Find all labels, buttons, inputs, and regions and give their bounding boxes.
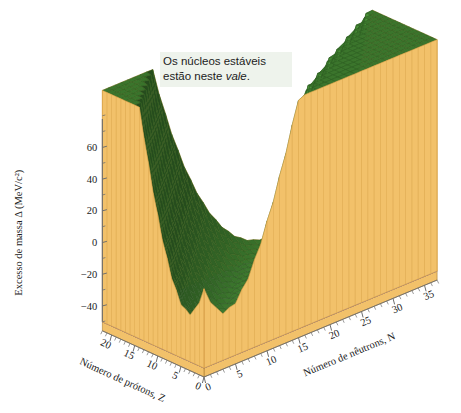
- n-axis-title: Número de nêutrons, N: [302, 330, 398, 378]
- callout-line-2: estão neste vale.: [163, 69, 289, 84]
- z-tick-label: −20: [81, 269, 97, 280]
- z-tick-label: 0: [92, 237, 97, 248]
- z-tick-label: −40: [81, 301, 97, 312]
- n-tick-label: 10: [264, 353, 278, 367]
- z-axis-title: Excesso de massa Δ (MeV/c²): [13, 169, 25, 295]
- z-proton-tick-label: 0: [194, 380, 203, 392]
- callout-line-2-suffix: .: [247, 70, 250, 82]
- n-tick-label: 0: [204, 381, 213, 393]
- callout-line-2-prefix: estão neste: [163, 70, 226, 82]
- z-tick-label: 60: [87, 142, 98, 153]
- stability-valley-callout: Os núcleos estáveis estão neste vale.: [160, 52, 292, 87]
- figure-root: 6040200−20−40Excesso de massa Δ (MeV/c²)…: [0, 0, 461, 413]
- n-tick-label: 5: [235, 368, 244, 380]
- callout-emphasis-vale: vale: [226, 70, 247, 82]
- z-tick-label: 40: [87, 174, 98, 185]
- n-tick-label: 30: [390, 301, 404, 315]
- n-tick-label: 15: [296, 340, 310, 354]
- n-tick-label: 35: [422, 288, 436, 302]
- n-tick-label: 20: [327, 327, 341, 341]
- z-proton-tick-label: 5: [171, 369, 180, 381]
- callout-line-1: Os núcleos estáveis: [163, 54, 289, 69]
- n-tick-label: 25: [359, 314, 373, 328]
- z-tick-label: 20: [87, 205, 98, 216]
- mass-excess-axis: 6040200−20−40Excesso de massa Δ (MeV/c²): [13, 115, 107, 322]
